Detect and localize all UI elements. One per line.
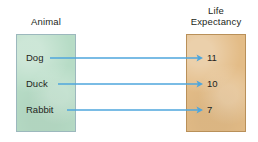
mapping-diagram: Animal Life Expectancy Dog Duck Rabbit 1… bbox=[0, 0, 258, 142]
left-item-duck: Duck bbox=[26, 79, 48, 89]
mapping-arrows-layer bbox=[0, 0, 258, 142]
mapping-arrow-rabbit bbox=[67, 106, 203, 113]
left-item-rabbit: Rabbit bbox=[26, 105, 53, 115]
left-item-dog: Dog bbox=[26, 53, 43, 63]
mapping-arrow-dog bbox=[50, 54, 203, 61]
mapping-arrow-duck bbox=[58, 80, 203, 87]
right-item-7: 7 bbox=[207, 105, 212, 115]
right-item-10: 10 bbox=[207, 79, 218, 89]
right-item-11: 11 bbox=[207, 53, 217, 63]
